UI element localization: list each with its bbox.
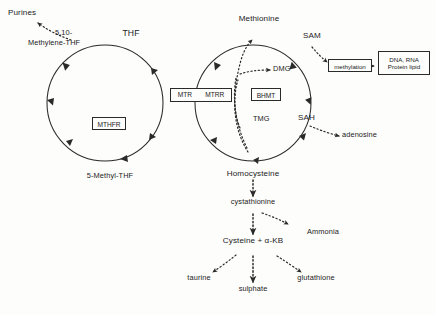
node-glutathione: glutathione <box>297 274 334 282</box>
node-cystathionine: cystathionine <box>231 198 275 206</box>
folate-cycle-direction-arrows <box>47 61 158 162</box>
folate-cycle-ring <box>47 45 163 162</box>
node-sulphate: sulphate <box>239 285 268 293</box>
tmg-to-methionine-arrow <box>235 40 252 152</box>
node-cysteine-akb: Cysteine + α-KB <box>223 236 283 245</box>
enzyme-box-mtr-mtrr: MTR MTRR <box>170 88 232 102</box>
node-purines: Purines <box>8 8 36 17</box>
bhmt-to-dmg-arrow <box>240 70 270 74</box>
cysteine-to-taurine-arrow <box>213 255 236 272</box>
node-methyl-thf: 5-Methyl-THF <box>87 172 133 180</box>
targets-line1: DNA, RNA <box>379 56 429 63</box>
node-ammonia: Ammonia <box>307 228 339 236</box>
node-methionine: Methionine <box>239 14 280 23</box>
node-sah: SAH <box>298 113 315 122</box>
sah-to-adenosine-arrow <box>310 126 339 136</box>
process-box-methylation-targets: DNA, RNA Protein lipid <box>378 51 430 75</box>
node-taurine: taurine <box>187 274 210 282</box>
enzyme-box-bhmt: BHMT <box>251 88 281 101</box>
node-tmg: TMG <box>253 115 270 123</box>
node-sam: SAM <box>303 31 321 40</box>
sam-to-methylation-arrow <box>312 47 327 62</box>
node-adenosine: adenosine <box>342 131 377 139</box>
methionine-cycle-direction-arrows <box>210 62 311 164</box>
enzyme-box-mthfr: MTHFR <box>92 117 126 130</box>
methionine-cycle-ring <box>195 45 311 164</box>
cysteine-to-glutathione-arrow <box>277 256 301 272</box>
node-dmg: DMG <box>273 65 291 73</box>
node-methylene-thf-line2: Methylene-THF <box>28 39 80 47</box>
enzyme-label-mtrr: MTRR <box>205 91 224 99</box>
cystathionine-to-ammonia-arrow <box>262 213 288 224</box>
enzyme-label-mtr: MTR <box>178 91 192 99</box>
targets-line2: Protein lipid <box>379 63 429 70</box>
process-box-methylation: methylation <box>328 59 372 72</box>
node-thf: THF <box>122 29 139 39</box>
node-methylene-thf-line1: 5,10- <box>55 29 72 37</box>
node-homocysteine: Homocysteine <box>227 169 279 178</box>
